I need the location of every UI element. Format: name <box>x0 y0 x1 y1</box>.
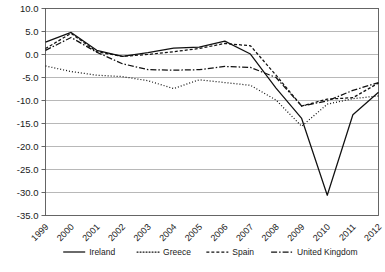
y-tick-label: 5.0 <box>25 26 38 37</box>
x-tick-label: 2010 <box>311 222 332 243</box>
y-tick-label: -35.0 <box>17 210 39 221</box>
plot-area-border <box>46 9 379 216</box>
y-tick-label: -10.0 <box>17 95 39 106</box>
y-tick-label: -25.0 <box>17 164 39 175</box>
x-axis-tick-labels: 1999200020012002200320042005200620072008… <box>29 222 383 243</box>
series-line-united-kingdom <box>46 37 379 106</box>
legend-item-spain: Spain <box>206 247 254 257</box>
line-chart: 10.05.00.0-5.0-10.0-15.0-20.0-25.0-30.0-… <box>0 0 385 272</box>
y-tick-label: 0.0 <box>25 49 38 60</box>
y-tick-label: -15.0 <box>17 118 39 129</box>
x-tick-label: 1999 <box>29 222 50 243</box>
y-tick-label: 10.0 <box>20 3 39 14</box>
y-axis-tick-labels: 10.05.00.0-5.0-10.0-15.0-20.0-25.0-30.0-… <box>17 3 39 221</box>
gridlines <box>46 32 379 193</box>
legend-item-ireland: Ireland <box>63 247 115 257</box>
series-line-greece <box>46 66 379 126</box>
x-tick-label: 2004 <box>157 222 178 243</box>
x-tick-label: 2003 <box>132 222 153 243</box>
legend-label: Ireland <box>89 247 115 257</box>
legend-label: Spain <box>232 247 254 257</box>
x-tick-label: 2002 <box>106 222 127 243</box>
y-tick-label: -30.0 <box>17 187 39 198</box>
chart-legend: IrelandGreeceSpainUnited Kingdom <box>63 247 357 257</box>
y-tick-label: -5.0 <box>22 72 38 83</box>
series-line-ireland <box>46 32 379 195</box>
x-tick-label: 2000 <box>55 222 76 243</box>
x-tick-label: 2001 <box>80 222 101 243</box>
y-tick-label: -20.0 <box>17 141 39 152</box>
x-tick-label: 2011 <box>337 222 358 243</box>
x-tick-label: 2009 <box>285 222 306 243</box>
x-tick-label: 2012 <box>362 222 383 243</box>
chart-canvas: 10.05.00.0-5.0-10.0-15.0-20.0-25.0-30.0-… <box>0 0 385 272</box>
plot-frame <box>46 9 379 216</box>
legend-label: Greece <box>163 247 191 257</box>
x-tick-label: 2005 <box>183 222 204 243</box>
legend-label: United Kingdom <box>297 247 357 257</box>
data-series <box>46 32 379 195</box>
x-tick-label: 2007 <box>234 222 255 243</box>
x-tick-label: 2008 <box>260 222 281 243</box>
legend-item-united-kingdom: United Kingdom <box>271 247 357 257</box>
legend-item-greece: Greece <box>137 247 191 257</box>
x-tick-label: 2006 <box>208 222 229 243</box>
y-axis-tick-marks <box>42 9 46 216</box>
